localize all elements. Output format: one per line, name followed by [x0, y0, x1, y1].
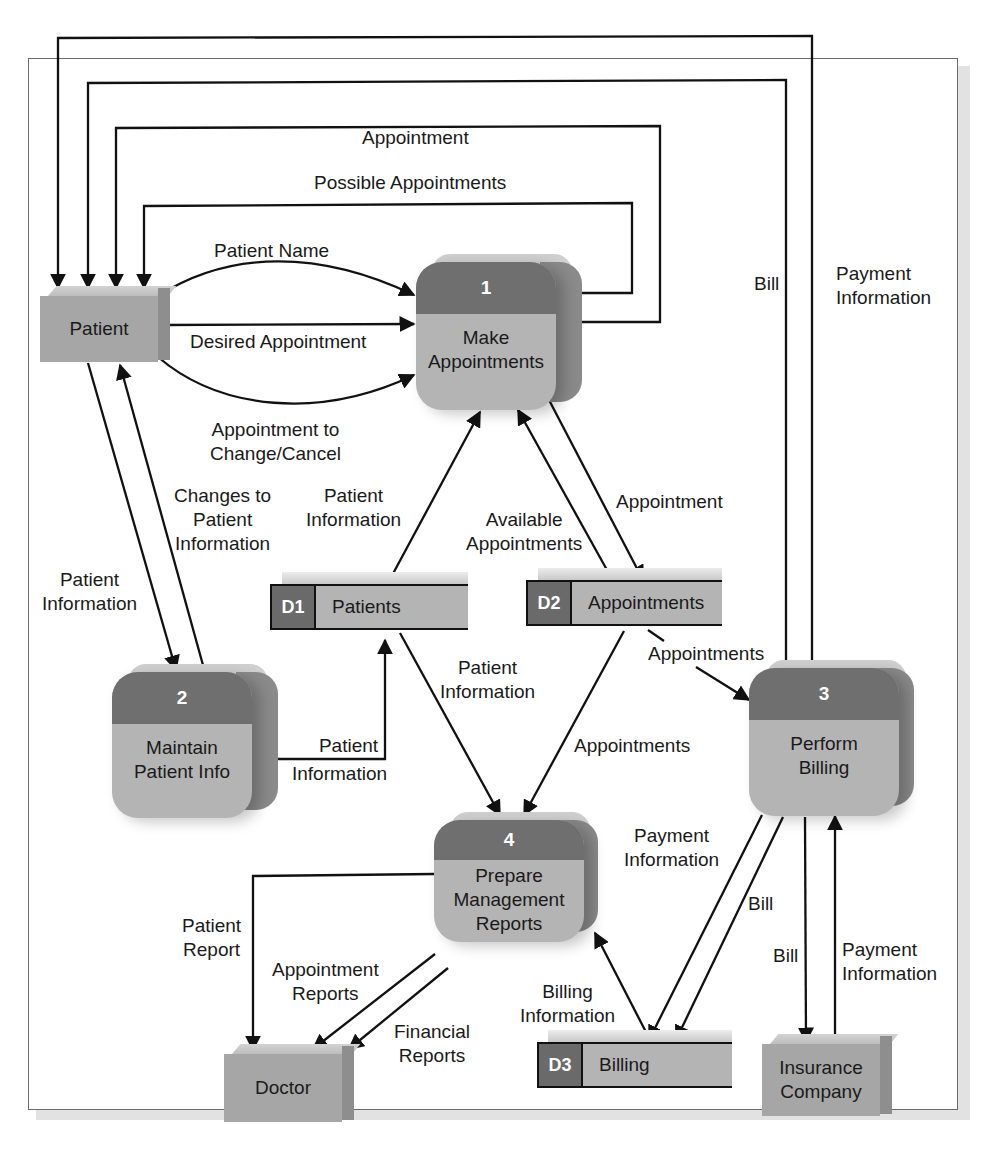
- flow-label-appointment: Appointment: [362, 126, 469, 150]
- process-4-prepare-management-reports[interactable]: 4 PrepareManagementReports: [434, 820, 584, 942]
- flow-label-bill-3-to-insurance: Bill: [773, 944, 798, 968]
- flow-label-appointment-to-d2: Appointment: [616, 490, 723, 514]
- flow-label-billing-information: BillingInformation: [520, 980, 615, 1028]
- flow-label-patient-name: Patient Name: [214, 239, 329, 263]
- store-d1-id: D1: [270, 586, 316, 628]
- entity-doctor-label: Doctor: [255, 1076, 311, 1100]
- store-top: [282, 572, 468, 584]
- store-d1-label: Patients: [316, 586, 468, 628]
- store-d3-billing[interactable]: D3 Billing: [537, 1042, 732, 1088]
- flow-label-patient-information-2-to-d1: PatientInformation: [292, 734, 387, 786]
- process-4-number: 4: [434, 820, 584, 860]
- store-d2-appointments[interactable]: D2 Appointments: [526, 580, 722, 626]
- flow-label-appointment-change-cancel: Appointment toChange/Cancel: [210, 418, 341, 466]
- store-d1-patients[interactable]: D1 Patients: [270, 584, 468, 630]
- process-3-label: PerformBilling: [749, 720, 899, 780]
- flow-label-patient-information-d1-to-1: PatientInformation: [306, 484, 401, 532]
- process-2-number: 2: [112, 672, 252, 724]
- store-d2-label: Appointments: [572, 582, 722, 624]
- entity-patient[interactable]: Patient: [40, 296, 158, 362]
- entity-insurance-label: Insurance Company: [771, 1056, 871, 1104]
- entity-insurance-company[interactable]: Insurance Company: [762, 1044, 880, 1116]
- process-3-perform-billing[interactable]: 3 PerformBilling: [749, 668, 899, 816]
- flow-label-bill: Bill: [754, 272, 779, 296]
- flow-label-changes-to-patient-information: Changes toPatientInformation: [174, 484, 271, 556]
- flow-label-payment-information-insurance: PaymentInformation: [842, 938, 937, 986]
- flow-label-payment-information-3-to-d3: PaymentInformation: [624, 824, 719, 872]
- flow-label-available-appointments: AvailableAppointments: [466, 508, 582, 556]
- flow-label-patient-information-left: PatientInformation: [42, 568, 137, 616]
- store-d3-id: D3: [537, 1044, 583, 1086]
- flow-label-appointments-d2-to-4: Appointments: [574, 734, 690, 758]
- process-2-maintain-patient-info[interactable]: 2 MaintainPatient Info: [112, 672, 252, 818]
- store-d3-label: Billing: [583, 1044, 732, 1086]
- flow-label-patient-report: PatientReport: [182, 914, 241, 962]
- process-1-make-appointments[interactable]: 1 MakeAppointments: [416, 262, 556, 410]
- entity-patient-label: Patient: [69, 317, 128, 341]
- process-2-label: MaintainPatient Info: [112, 724, 252, 784]
- flow-label-financial-reports: FinancialReports: [394, 1020, 470, 1068]
- store-top: [538, 568, 722, 580]
- process-4-label: PrepareManagementReports: [434, 860, 584, 936]
- process-1-label: MakeAppointments: [416, 314, 556, 374]
- flow-label-patient-information-d1-to-4: PatientInformation: [440, 656, 535, 704]
- flow-label-appointments-d2-to-3: Appointments: [648, 642, 764, 666]
- flow-label-payment-information: PaymentInformation: [836, 262, 931, 310]
- entity-doctor[interactable]: Doctor: [224, 1054, 342, 1122]
- process-3-number: 3: [749, 668, 899, 720]
- flow-label-bill-3-to-d3: Bill: [748, 892, 773, 916]
- flow-label-desired-appointment: Desired Appointment: [190, 330, 366, 354]
- flow-label-appointment-reports: AppointmentReports: [272, 958, 379, 1006]
- flow-label-possible-appointments: Possible Appointments: [314, 171, 506, 195]
- store-d2-id: D2: [526, 582, 572, 624]
- store-top: [548, 1030, 732, 1042]
- process-1-number: 1: [416, 262, 556, 314]
